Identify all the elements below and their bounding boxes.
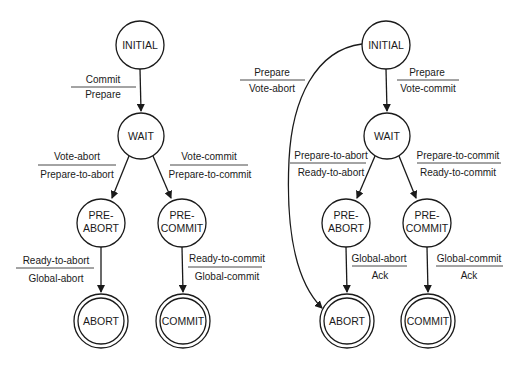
transition-input: Ready-to-commit — [189, 253, 265, 264]
edge-initial-wait — [140, 69, 141, 111]
label-initial-wait: Commit Prepare — [71, 74, 136, 100]
label-initial-wait: Prepare Vote-commit — [397, 67, 459, 94]
state-label-line1: PRE- — [88, 209, 114, 221]
transition-input: Global-commit — [437, 253, 502, 264]
state-wait: WAIT — [118, 113, 164, 159]
state-abort-final: ABORT — [320, 294, 374, 348]
label-wait-pre-commit: Vote-commit Prepare-to-commit — [169, 151, 252, 180]
state-label-line1: PRE- — [333, 209, 359, 221]
edge-wait-pre-abort — [112, 156, 129, 198]
transition-output: Global-commit — [195, 271, 260, 282]
transition-output: Prepare-to-commit — [169, 169, 252, 180]
state-label: WAIT — [128, 130, 154, 142]
state-label: ABORT — [83, 315, 120, 327]
label-pre-abort-abort: Ready-to-abort Global-abort — [16, 255, 94, 284]
edge-pre-commit-commit — [427, 247, 428, 292]
state-initial: INITIAL — [116, 21, 164, 69]
label-wait-pre-commit: Prepare-to-commit Ready-to-commit — [417, 150, 501, 178]
state-label: ABORT — [329, 315, 366, 327]
transition-input: Ready-to-abort — [23, 255, 90, 266]
state-commit-final: COMMIT — [156, 294, 210, 348]
label-wait-pre-abort: Vote-abort Prepare-to-abort — [38, 151, 116, 180]
edge-initial-wait — [386, 69, 387, 111]
participant-diagram: INITIAL WAIT PRE- ABORT PRE- COMMIT ABOR… — [240, 21, 503, 348]
transition-output: Ack — [372, 270, 390, 281]
state-pre-abort: PRE- ABORT — [322, 199, 370, 247]
state-initial: INITIAL — [362, 21, 410, 69]
state-pre-abort: PRE- ABORT — [77, 199, 125, 247]
transition-output: Ready-to-commit — [420, 167, 496, 178]
state-label-line2: ABORT — [83, 222, 120, 234]
transition-input: Commit — [86, 74, 121, 85]
transition-input: Prepare-to-abort — [294, 150, 368, 161]
state-abort-final: ABORT — [74, 294, 128, 348]
state-label: COMMIT — [407, 315, 450, 327]
transition-output: Vote-commit — [400, 83, 456, 94]
transition-output: Ready-to-abort — [298, 167, 365, 178]
edge-pre-abort-abort — [346, 247, 347, 292]
state-pre-commit: PRE- COMMIT — [158, 199, 206, 247]
state-pre-commit: PRE- COMMIT — [403, 199, 451, 247]
transition-input: Vote-abort — [54, 151, 100, 162]
state-label: COMMIT — [162, 315, 205, 327]
label-pre-commit-commit: Global-commit Ack — [436, 253, 503, 281]
label-wait-pre-abort: Prepare-to-abort Ready-to-abort — [290, 150, 368, 178]
state-label: WAIT — [374, 130, 400, 142]
three-phase-commit-diagram: INITIAL WAIT PRE- ABORT PRE- COMMIT ABOR… — [0, 0, 522, 368]
state-label-line1: PRE- — [414, 209, 440, 221]
transition-output: Ack — [461, 270, 479, 281]
state-label-line2: COMMIT — [161, 222, 204, 234]
state-label: INITIAL — [122, 39, 158, 51]
transition-output: Prepare-to-abort — [40, 169, 114, 180]
label-initial-abort: Prepare Vote-abort — [240, 67, 305, 94]
state-label-line1: PRE- — [169, 209, 195, 221]
transition-input: Vote-commit — [181, 151, 237, 162]
transition-output: Prepare — [85, 89, 121, 100]
transition-output: Global-abort — [28, 273, 83, 284]
state-label-line2: ABORT — [328, 222, 365, 234]
label-pre-commit-commit: Ready-to-commit Global-commit — [188, 253, 265, 282]
state-label: INITIAL — [368, 39, 404, 51]
transition-output: Vote-abort — [249, 83, 295, 94]
state-wait: WAIT — [364, 113, 410, 159]
transition-input: Global-abort — [351, 253, 406, 264]
transition-input: Prepare — [254, 67, 290, 78]
state-label-line2: COMMIT — [406, 222, 449, 234]
coordinator-diagram: INITIAL WAIT PRE- ABORT PRE- COMMIT ABOR… — [16, 21, 265, 348]
label-pre-abort-abort: Global-abort Ack — [351, 253, 407, 281]
edge-wait-pre-commit — [399, 156, 416, 198]
state-commit-final: COMMIT — [401, 294, 455, 348]
transition-input: Prepare — [409, 67, 445, 78]
edge-pre-commit-commit — [182, 247, 183, 292]
transition-input: Prepare-to-commit — [417, 150, 500, 161]
